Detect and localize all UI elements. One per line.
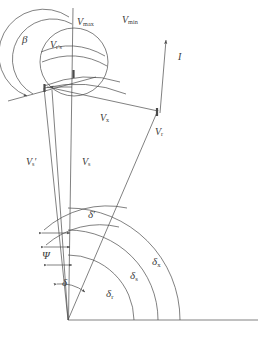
arc-delta-prime-inner xyxy=(46,225,119,245)
arc-delta-x xyxy=(68,208,180,320)
label-v-s-prime: Vs′ xyxy=(26,157,37,168)
label-delta: δ xyxy=(62,277,67,288)
vector-angle-diagram: Vmax Vmin Vr's β I Vx Vr Vs′ Vs δ′ Ψ δ δ… xyxy=(0,0,265,338)
diagram-geometry xyxy=(0,8,258,320)
diagram-canvas xyxy=(0,0,265,338)
ray-inclination xyxy=(160,40,166,113)
beta-reference-line xyxy=(8,77,96,101)
label-delta-prime: δ′ xyxy=(88,209,95,220)
label-v-max: Vmax xyxy=(77,17,94,28)
label-v-min: Vmin xyxy=(122,15,138,26)
label-v-r: Vr xyxy=(155,127,163,138)
label-beta: β xyxy=(22,34,27,45)
arc-delta-s xyxy=(68,230,158,320)
vertical-reference-axis xyxy=(69,8,74,320)
connector-vx xyxy=(47,87,158,111)
label-v-rs: Vr's xyxy=(50,40,62,51)
label-delta-s: δs xyxy=(130,270,138,282)
label-delta-r: δr xyxy=(106,288,114,300)
label-delta-x: δx xyxy=(152,256,161,268)
chord-upper-lower-edge xyxy=(42,56,107,66)
label-v-s: Vs xyxy=(82,157,91,168)
label-inclination: I xyxy=(178,52,181,62)
arc-beta xyxy=(0,9,69,96)
label-v-x: Vx xyxy=(100,113,109,124)
label-psi: Ψ xyxy=(42,250,50,261)
